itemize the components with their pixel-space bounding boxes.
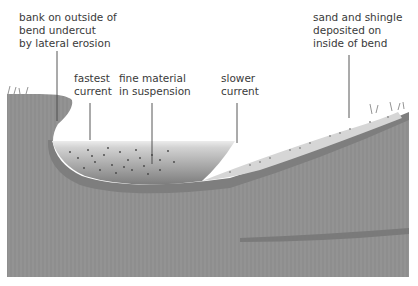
label-sand-shingle: sand and shingle deposited on inside of … (313, 11, 402, 50)
label-slower-current: slower current (221, 72, 259, 98)
label-fastest-current: fastest current (74, 72, 112, 98)
label-bank-erosion: bank on outside of bend undercut by late… (19, 11, 117, 50)
label-fine-material: fine material in suspension (119, 72, 191, 98)
